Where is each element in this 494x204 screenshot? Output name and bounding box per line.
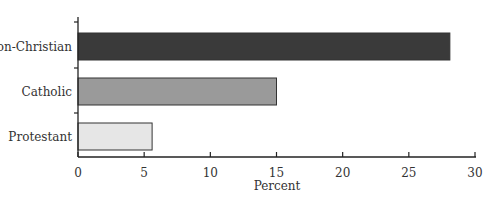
x-tick-label: 30 — [467, 166, 482, 180]
category-label: Protestant — [8, 130, 72, 144]
bar-chart: Non-ChristianCatholicProtestant 05101520… — [0, 0, 494, 204]
category-labels: Non-ChristianCatholicProtestant — [0, 40, 72, 144]
bars-group — [78, 33, 450, 150]
bar-catholic — [78, 78, 277, 105]
x-tick-label: 0 — [74, 166, 82, 180]
category-label: Catholic — [21, 85, 72, 99]
x-tick-label: 20 — [335, 166, 350, 180]
x-axis-title: Percent — [254, 179, 301, 193]
category-label: Non-Christian — [0, 40, 72, 54]
bar-non-christian — [78, 33, 450, 60]
bar-protestant — [78, 123, 152, 150]
x-tick-label: 10 — [203, 166, 218, 180]
x-tick-label: 25 — [401, 166, 416, 180]
x-axis-ticks: 051015202530 — [74, 152, 482, 180]
x-tick-label: 15 — [269, 166, 284, 180]
x-tick-label: 5 — [140, 166, 148, 180]
